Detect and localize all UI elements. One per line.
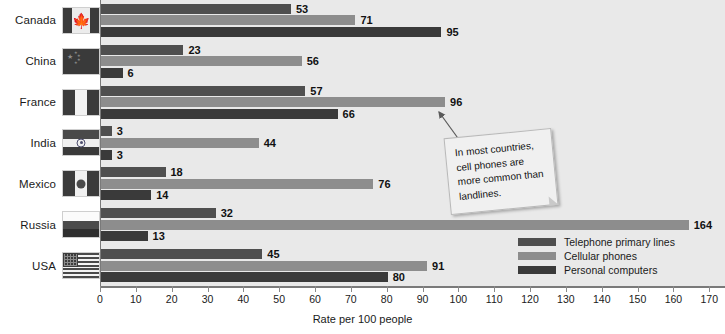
x-tick xyxy=(566,286,567,292)
x-axis-title: Rate per 100 people xyxy=(0,313,725,325)
x-tick xyxy=(172,286,173,292)
bar-group-india-cellular: 44 xyxy=(101,138,725,148)
bar-value-label: 44 xyxy=(264,137,276,149)
legend-label: Telephone primary lines xyxy=(564,236,675,248)
bar xyxy=(101,272,388,282)
bar-value-label: 32 xyxy=(221,207,233,219)
bar xyxy=(101,15,355,25)
bar-group-france-telephone: 57 xyxy=(101,86,725,96)
category-row-canada: Canada🍁 xyxy=(0,0,100,41)
category-label: France xyxy=(20,96,56,108)
bar-group-canada-cellular: 71 xyxy=(101,15,725,25)
bar-group-china-cellular: 56 xyxy=(101,56,725,66)
bar-group-russia-telephone: 32 xyxy=(101,208,725,218)
x-tick-label: 120 xyxy=(521,293,539,305)
category-axis: Canada🍁China★★★★★FranceIndiaMexicoRussia… xyxy=(0,0,100,286)
bar-chart: Canada🍁China★★★★★FranceIndiaMexicoRussia… xyxy=(0,0,725,334)
x-tick-label: 40 xyxy=(238,293,250,305)
x-tick xyxy=(530,286,531,292)
x-tick-label: 30 xyxy=(202,293,214,305)
legend-item-2[interactable]: Personal computers xyxy=(518,264,675,276)
x-tick xyxy=(638,286,639,292)
bar xyxy=(101,261,427,271)
x-tick-label: 160 xyxy=(665,293,683,305)
bar xyxy=(101,208,216,218)
legend-label: Cellular phones xyxy=(564,250,637,262)
bar-group-china-computers: 6 xyxy=(101,68,725,78)
x-tick xyxy=(279,286,280,292)
legend-item-1[interactable]: Cellular phones xyxy=(518,250,675,262)
bar-group-canada-computers: 95 xyxy=(101,27,725,37)
x-tick xyxy=(709,286,710,292)
category-label: Mexico xyxy=(19,178,56,190)
category-label: China xyxy=(25,55,56,67)
bar-group-india-computers: 3 xyxy=(101,150,725,160)
bar xyxy=(101,179,373,189)
x-tick-label: 80 xyxy=(381,293,393,305)
x-tick xyxy=(100,286,101,292)
category-row-mexico: Mexico xyxy=(0,163,100,204)
bar xyxy=(101,97,445,107)
bar xyxy=(101,109,338,119)
category-label: USA xyxy=(32,260,56,272)
bar-value-label: 66 xyxy=(343,108,355,120)
x-tick-label: 100 xyxy=(450,293,468,305)
legend: Telephone primary linesCellular phonesPe… xyxy=(518,236,675,276)
category-row-china: China★★★★★ xyxy=(0,41,100,82)
bar xyxy=(101,68,123,78)
bar xyxy=(101,4,291,14)
bar xyxy=(101,56,302,66)
bar xyxy=(101,190,151,200)
bar-value-label: 23 xyxy=(188,44,200,56)
x-tick-label: 110 xyxy=(486,293,503,305)
bar xyxy=(101,249,262,259)
bar-value-label: 76 xyxy=(378,178,390,190)
x-tick xyxy=(458,286,459,292)
bar xyxy=(101,150,112,160)
bar-value-label: 14 xyxy=(156,189,168,201)
bar xyxy=(101,86,305,96)
legend-swatch xyxy=(518,252,556,260)
bar-value-label: 13 xyxy=(153,230,165,242)
callout-text: In most countries, cell phones are more … xyxy=(454,140,544,202)
bar-value-label: 18 xyxy=(171,166,183,178)
bar xyxy=(101,167,166,177)
bar-value-label: 53 xyxy=(296,3,308,15)
x-tick-label: 50 xyxy=(273,293,285,305)
bar-group-france-cellular: 96 xyxy=(101,97,725,107)
bar-value-label: 3 xyxy=(117,149,123,161)
x-tick xyxy=(423,286,424,292)
x-tick xyxy=(136,286,137,292)
france-flag-icon xyxy=(62,89,100,116)
bar-value-label: 164 xyxy=(694,219,712,231)
x-tick-label: 90 xyxy=(417,293,429,305)
china-flag-icon: ★★★★★ xyxy=(62,48,100,75)
x-tick-label: 20 xyxy=(166,293,178,305)
x-axis-line xyxy=(100,286,725,288)
russia-flag-icon xyxy=(62,211,100,238)
category-label: Russia xyxy=(20,219,56,231)
bar-value-label: 3 xyxy=(117,125,123,137)
canada-flag-icon: 🍁 xyxy=(62,7,100,34)
x-tick xyxy=(602,286,603,292)
legend-swatch xyxy=(518,266,556,274)
bar-group-china-telephone: 23 xyxy=(101,45,725,55)
bar-value-label: 80 xyxy=(393,271,405,283)
bar xyxy=(101,231,148,241)
legend-item-0[interactable]: Telephone primary lines xyxy=(518,236,675,248)
x-tick xyxy=(494,286,495,292)
category-label: India xyxy=(31,137,56,149)
x-tick xyxy=(243,286,244,292)
bar-group-mexico-computers: 14 xyxy=(101,190,725,200)
bar xyxy=(101,138,259,148)
bar xyxy=(101,27,441,37)
x-tick xyxy=(351,286,352,292)
india-flag-icon xyxy=(62,129,100,156)
bar-value-label: 56 xyxy=(307,55,319,67)
category-label: Canada xyxy=(15,14,56,26)
x-tick-label: 170 xyxy=(700,293,718,305)
x-tick xyxy=(315,286,316,292)
x-tick xyxy=(208,286,209,292)
usa-flag-icon xyxy=(62,252,100,279)
bar-value-label: 95 xyxy=(446,26,458,38)
